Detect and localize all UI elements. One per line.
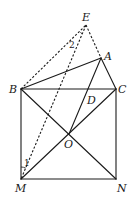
angle-2-arc [81, 32, 83, 34]
label-A: A [103, 50, 112, 63]
label-C: C [118, 83, 127, 96]
label-N: N [116, 182, 127, 195]
angle-2-label: 2 [69, 40, 75, 50]
angle-1-label: 1 [24, 158, 30, 168]
segment-EM [21, 25, 86, 179]
label-B: B [8, 83, 17, 96]
label-O: O [64, 138, 73, 151]
label-D: D [86, 94, 96, 107]
segment-EA [86, 25, 101, 58]
segment-BE [21, 25, 86, 89]
geometry-diagram: E A B C D O M N 1 2 [0, 0, 137, 205]
label-M: M [14, 182, 27, 195]
label-E: E [81, 11, 90, 24]
segment-AO [69, 58, 101, 134]
